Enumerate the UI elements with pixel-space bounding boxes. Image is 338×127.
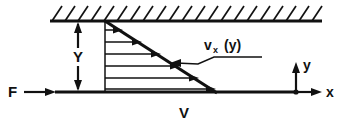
profile-label-main: v [204,37,212,53]
y-axis-label: y [303,57,311,73]
couette-flow-figure: F Y V v x (y) y x [0,0,338,127]
gap-arrow-down-arrowhead-icon [74,80,82,91]
figure-canvas: F Y V v x (y) y x [0,0,338,127]
velocity-profile-group [105,21,217,93]
x-axis-arrowhead-icon [311,88,322,96]
plate-velocity-label: V [179,104,189,121]
x-axis-label: x [326,84,334,100]
profile-label-leader-group [170,57,262,67]
profile-label-leader-line [176,57,262,64]
force-label: F [8,83,17,100]
wall-hatching [52,6,322,21]
force-arrowhead-icon [45,88,56,96]
profile-label-argument: (y) [224,37,241,53]
profile-label-group: v x (y) [204,37,241,55]
force-arrow-group [24,88,56,96]
axes-origin-dot [293,89,298,94]
profile-label-subscript: x [213,45,218,55]
velocity-profile-envelope [105,21,217,93]
y-axis-arrowhead-icon [292,62,300,73]
stationary-wall-group [50,6,322,21]
gap-height-label: Y [73,48,83,65]
gap-arrow-up-arrowhead-icon [74,22,82,33]
